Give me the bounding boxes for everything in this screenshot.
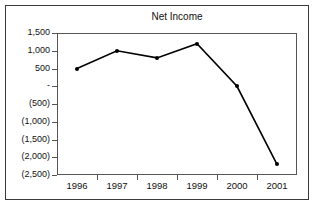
y-axis-tick [52, 51, 57, 52]
x-axis-tick [217, 175, 218, 180]
x-axis-tick-label: 2000 [217, 181, 257, 191]
y-axis-tick-label: (2,500) [2, 170, 50, 179]
y-axis-tick-label: (2,000) [2, 152, 50, 161]
y-axis-tick [52, 86, 57, 87]
x-axis-tick [257, 175, 258, 180]
y-axis-tick [52, 175, 57, 176]
y-axis-tick [52, 104, 57, 105]
line-chart: 1,5001,000500-(500)(1,000)(1,500)(2,000)… [0, 0, 316, 207]
x-axis-tick-label: 1996 [57, 181, 97, 191]
data-point [75, 67, 79, 71]
net-income-line [77, 44, 277, 165]
x-axis-tick-label: 2001 [257, 181, 297, 191]
x-axis-tick-label: 1997 [97, 181, 137, 191]
y-axis-tick-label: 500 [2, 64, 50, 73]
x-axis-tick [97, 175, 98, 180]
y-axis-tick [52, 140, 57, 141]
y-axis-tick-label: (1,000) [2, 117, 50, 126]
data-point [155, 56, 159, 60]
y-axis-tick-label: 1,000 [2, 46, 50, 55]
y-axis-tick-label: (500) [2, 99, 50, 108]
y-axis-tick [52, 157, 57, 158]
y-axis-tick-label: 1,500 [2, 28, 50, 37]
y-axis-tick-label: - [2, 81, 50, 90]
data-point [115, 49, 119, 53]
x-axis-tick-label: 1999 [177, 181, 217, 191]
x-axis-tick [137, 175, 138, 180]
data-point [195, 42, 199, 46]
y-axis-tick [52, 33, 57, 34]
y-axis-tick [52, 69, 57, 70]
x-axis-tick-label: 1998 [137, 181, 177, 191]
y-axis-tick [52, 122, 57, 123]
x-axis-tick [177, 175, 178, 180]
y-axis-tick-label: (1,500) [2, 135, 50, 144]
